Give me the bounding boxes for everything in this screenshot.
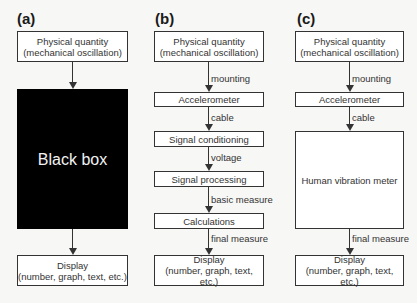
b-edge-mounting: mounting (211, 73, 250, 84)
a-input-line2: (mechanical oscillation) (23, 47, 122, 58)
c-display-line2: (number, graph, text, etc.) (296, 265, 403, 287)
c-meter-box: Human vibration meter (295, 131, 404, 229)
c-arrow1-line (349, 62, 350, 86)
b-arrow4-head-icon (205, 206, 213, 213)
a-display-line1: Display (57, 260, 88, 271)
b-display-box: Display (number, graph, text, etc.) (154, 255, 264, 286)
panel-b-label: (b) (155, 10, 174, 27)
b-edge-basic: basic measure (211, 194, 273, 205)
c-edge-cable: cable (352, 112, 375, 123)
c-arrow2-line (349, 107, 350, 125)
b-arrow1-head-icon (205, 85, 213, 92)
a-arrow2-head-icon (69, 248, 77, 255)
a-input-box: Physical quantity (mechanical oscillatio… (17, 31, 128, 62)
c-display-box: Display (number, graph, text, etc.) (295, 255, 404, 286)
b-arrow3-head-icon (205, 164, 213, 171)
a-arrow1-head-icon (69, 82, 77, 89)
b-display-line2: (number, graph, text, etc.) (155, 265, 263, 287)
c-meter-label: Human vibration meter (301, 175, 397, 186)
c-arrow2-head-icon (346, 124, 354, 131)
b-accelerometer-box: Accelerometer (154, 92, 264, 107)
b-processing-label: Signal processing (172, 174, 247, 185)
b-arrow3-line (208, 147, 209, 165)
c-edge-mounting: mounting (352, 73, 391, 84)
a-display-box: Display (number, graph, text, etc.) (17, 255, 128, 286)
a-blackbox: Black box (17, 89, 128, 229)
c-input-line2: (mechanical oscillation) (300, 47, 399, 58)
b-conditioning-box: Signal conditioning (154, 131, 264, 147)
b-calculations-box: Calculations (154, 213, 264, 229)
c-input-line1: Physical quantity (314, 36, 385, 47)
panel-a-label: (a) (17, 10, 35, 27)
c-display-line1: Display (334, 254, 365, 265)
b-edge-final: final measure (211, 233, 268, 244)
b-calculations-label: Calculations (183, 216, 235, 227)
b-arrow2-head-icon (205, 124, 213, 131)
b-edge-cable: cable (211, 112, 234, 123)
c-arrow3-line (349, 229, 350, 249)
c-accelerometer-box: Accelerometer (295, 92, 404, 107)
a-blackbox-label: Black box (38, 154, 107, 165)
c-accelerometer-label: Accelerometer (319, 94, 380, 105)
a-input-line1: Physical quantity (37, 36, 108, 47)
a-display-line2: (number, graph, text, etc.) (18, 271, 127, 282)
b-arrow4-line (208, 187, 209, 207)
b-arrow5-line (208, 229, 209, 249)
b-accelerometer-label: Accelerometer (178, 94, 239, 105)
b-input-line2: (mechanical oscillation) (160, 47, 259, 58)
panel-c-label: (c) (297, 10, 315, 27)
b-input-box: Physical quantity (mechanical oscillatio… (154, 31, 264, 62)
b-input-line1: Physical quantity (173, 36, 244, 47)
a-arrow1-line (72, 62, 73, 83)
b-arrow2-line (208, 107, 209, 125)
c-input-box: Physical quantity (mechanical oscillatio… (295, 31, 404, 62)
c-edge-final: final measure (352, 233, 409, 244)
b-display-line1: Display (193, 254, 224, 265)
a-arrow2-line (72, 229, 73, 249)
b-edge-voltage: voltage (211, 152, 242, 163)
b-processing-box: Signal processing (154, 171, 264, 187)
b-conditioning-label: Signal conditioning (169, 134, 249, 145)
b-arrow1-line (208, 62, 209, 86)
c-arrow1-head-icon (346, 85, 354, 92)
